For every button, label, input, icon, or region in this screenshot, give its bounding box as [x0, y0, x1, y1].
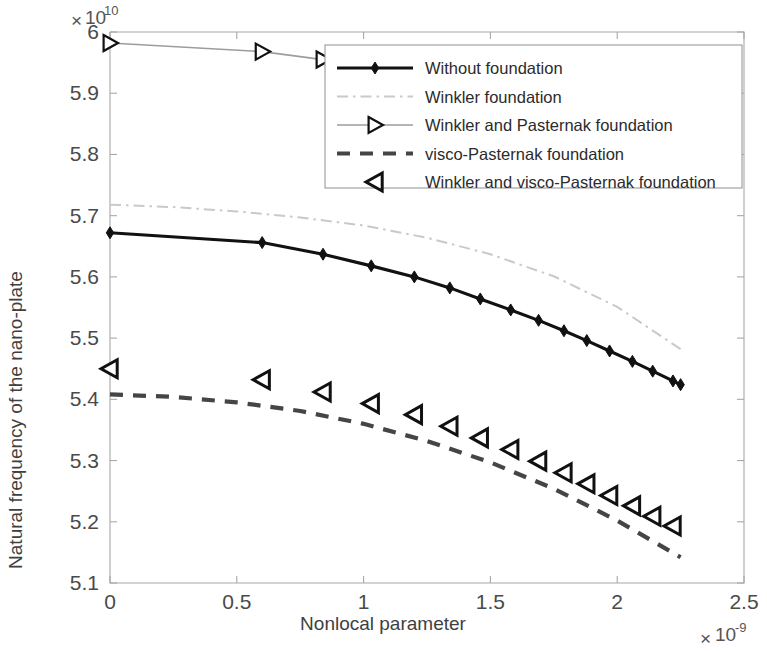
- data-point-marker-triangle-left: [253, 371, 269, 389]
- x-axis-tick-labels: 00.511.522.5: [104, 590, 758, 613]
- data-point-marker-triangle-left: [555, 464, 571, 482]
- data-point-marker-triangle-left: [405, 406, 421, 424]
- data-point-marker-triangle-left: [441, 417, 457, 435]
- x-multiplier-base: 10: [715, 624, 736, 645]
- series-without-foundation: [106, 227, 684, 391]
- x-tick-label: 0.5: [222, 590, 251, 613]
- data-point-marker-triangle-left: [101, 360, 117, 378]
- data-point-marker-triangle-left: [502, 441, 518, 459]
- series-winkler-and-visco-pasternak-foundation: [101, 360, 680, 535]
- chart-figure: 00.511.522.5 5.15.25.35.45.55.65.75.85.9…: [0, 0, 767, 651]
- y-tick-label: 5.3: [70, 449, 99, 472]
- data-point-marker-diamond: [669, 375, 676, 387]
- x-axis-title: Nonlocal parameter: [300, 613, 466, 634]
- y-multiplier-base: 10: [85, 7, 106, 28]
- data-point-marker-diamond: [560, 325, 567, 337]
- y-tick-label: 5.4: [70, 387, 100, 410]
- data-point-marker-triangle-left: [578, 475, 594, 493]
- data-point-marker-diamond: [606, 345, 613, 357]
- data-point-marker-diamond: [535, 314, 542, 326]
- series-line: [110, 233, 681, 385]
- data-point-marker-triangle-right: [256, 44, 270, 60]
- data-point-marker-diamond: [106, 227, 113, 239]
- y-tick-label: 5.5: [70, 326, 99, 349]
- data-point-marker-triangle-left: [471, 429, 487, 447]
- data-point-marker-triangle-left: [601, 486, 617, 504]
- data-point-marker-triangle-right: [104, 35, 118, 51]
- data-point-marker-diamond: [258, 237, 265, 249]
- chart-legend: Without foundationWinkler foundationWink…: [325, 45, 742, 191]
- y-axis-title: Natural frequency of the nano-plate: [5, 271, 26, 569]
- data-point-marker-diamond: [411, 271, 418, 283]
- series-winkler-foundation: [110, 205, 681, 349]
- y-tick-label: 5.2: [70, 510, 99, 533]
- series-line: [110, 205, 681, 349]
- x-tick-label: 0: [104, 590, 116, 613]
- y-multiplier-exponent: 10: [104, 3, 118, 18]
- data-point-marker-diamond: [649, 365, 656, 377]
- x-tick-label: 2: [611, 590, 623, 613]
- data-point-marker-triangle-left: [314, 383, 330, 401]
- x-multiplier-exponent: -9: [735, 620, 747, 635]
- data-point-marker-diamond: [477, 293, 484, 305]
- y-axis-multiplier: × 10 10: [71, 3, 118, 31]
- y-multiplier-symbol: ×: [71, 10, 82, 31]
- data-point-marker-diamond: [446, 282, 453, 294]
- y-tick-label: 5.6: [70, 265, 99, 288]
- data-point-marker-triangle-left: [623, 497, 639, 515]
- x-axis-multiplier: × 10 -9: [700, 620, 747, 649]
- y-tick-label: 5.7: [70, 204, 99, 227]
- legend-item-label: visco-Pasternak foundation: [425, 145, 624, 163]
- data-point-marker-diamond: [507, 304, 514, 316]
- legend-item-label: Winkler and Pasternak foundation: [425, 116, 673, 134]
- data-point-marker-triangle-left: [530, 452, 546, 470]
- y-axis-tick-labels: 5.15.25.35.45.55.65.75.85.96: [70, 20, 100, 594]
- y-tick-label: 5.1: [70, 571, 99, 594]
- chart-plot-area: 00.511.522.5 5.15.25.35.45.55.65.75.85.9…: [0, 0, 767, 651]
- x-tick-label: 1.5: [476, 590, 505, 613]
- legend-item-label: Without foundation: [425, 59, 563, 77]
- data-point-marker-diamond: [583, 335, 590, 347]
- data-point-marker-triangle-left: [664, 517, 680, 535]
- data-point-marker-triangle-left: [644, 507, 660, 525]
- data-point-marker-diamond: [677, 379, 684, 391]
- data-point-marker-diamond: [319, 248, 326, 260]
- y-tick-label: 5.8: [70, 142, 99, 165]
- data-point-marker-diamond: [629, 355, 636, 367]
- x-tick-label: 2.5: [729, 590, 758, 613]
- x-tick-label: 1: [358, 590, 370, 613]
- x-multiplier-symbol: ×: [700, 628, 711, 649]
- data-point-marker-triangle-left: [362, 395, 378, 413]
- y-tick-label: 5.9: [70, 81, 99, 104]
- legend-item-label: Winkler foundation: [425, 88, 562, 106]
- data-point-marker-diamond: [367, 260, 374, 272]
- legend-item-label: Winkler and visco-Pasternak foundation: [425, 173, 716, 191]
